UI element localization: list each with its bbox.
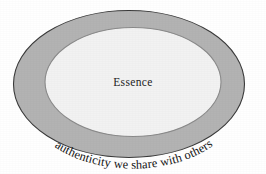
inner-ellipse-label: Essence xyxy=(113,76,153,88)
diagram-canvas: Essence authenticity we share with other… xyxy=(0,0,266,174)
concentric-ellipse-diagram: Essence authenticity we share with other… xyxy=(0,0,266,174)
